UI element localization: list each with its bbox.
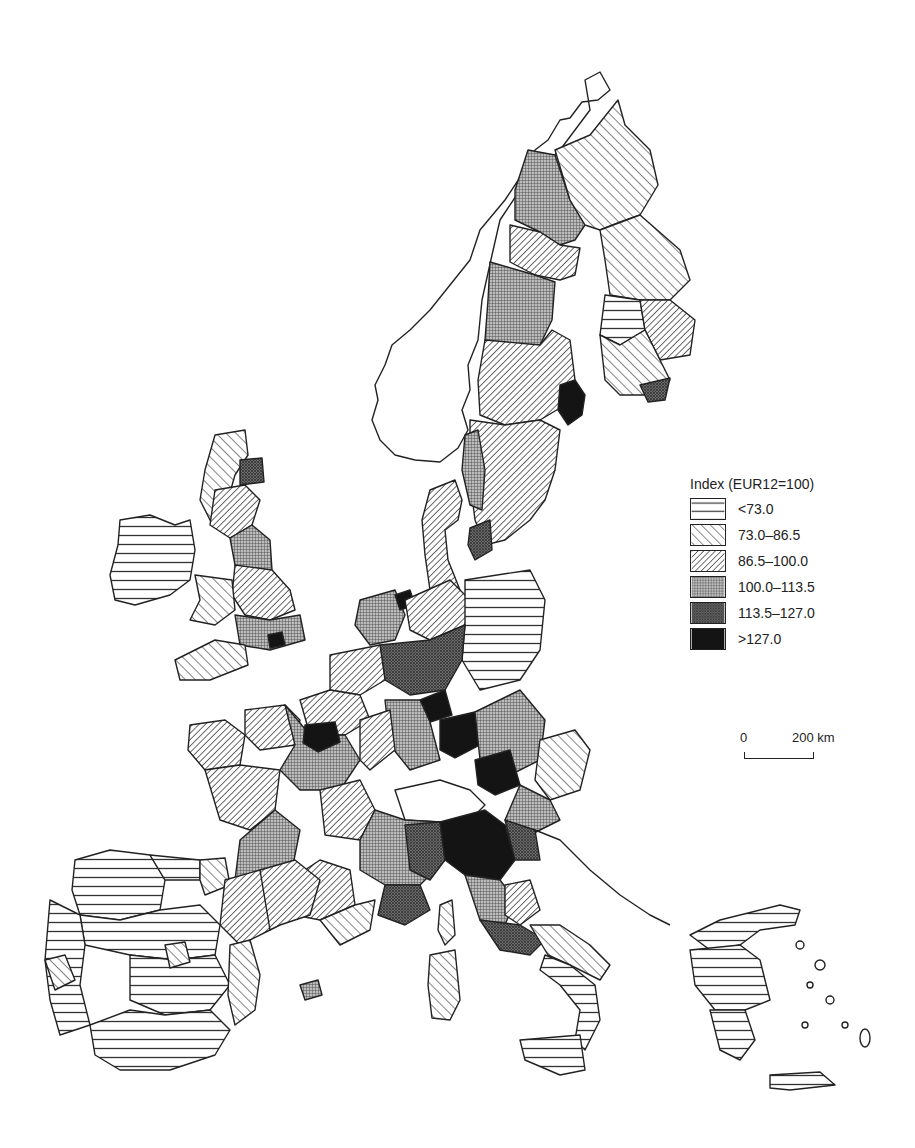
scale-end-label: 200 km: [792, 730, 835, 745]
region-crete: [770, 1072, 835, 1090]
island-aegean: [842, 1022, 848, 1028]
region-stuttgart: [440, 712, 480, 758]
legend-title: Index (EUR12=100): [690, 476, 890, 492]
region-provence: [378, 885, 430, 925]
region-finland-north: [600, 215, 690, 300]
region-grampian: [240, 458, 264, 485]
pattern-fine-grid-icon: [690, 576, 726, 598]
region-corsica: [438, 900, 455, 945]
legend: Index (EUR12=100) <73.0 73.0–86.5 86.5–1…: [690, 476, 890, 652]
region-sicily: [520, 1035, 585, 1075]
legend-label: >127.0: [738, 631, 781, 647]
pattern-solid-black-icon: [690, 628, 726, 650]
region-copenhagen: [468, 520, 492, 560]
region-brittany: [188, 720, 245, 770]
island-rhodes: [860, 1029, 870, 1047]
region-adriatic-coast: [535, 830, 670, 925]
island-aegean: [802, 1022, 808, 1028]
region-balearics: [300, 980, 322, 1000]
region-spain-northwest: [72, 850, 165, 920]
region-england-southwest: [175, 640, 248, 680]
island-aegean: [807, 982, 813, 988]
legend-label: 113.5–127.0: [738, 605, 815, 621]
legend-label: <73.0: [738, 501, 773, 517]
region-england-midlands: [232, 565, 295, 620]
region-lombardy-emilia: [440, 810, 515, 880]
island-aegean: [815, 960, 825, 970]
pattern-dense-diagonal-icon: [690, 550, 726, 572]
legend-item: 100.0–113.5: [690, 574, 890, 600]
legend-label: 86.5–100.0: [738, 553, 808, 569]
region-peloponnese: [710, 1010, 755, 1060]
region-valencia: [228, 940, 260, 1025]
region-denmark-jutland: [422, 480, 462, 600]
pattern-dark-crosshatch-icon: [690, 602, 726, 624]
island-aegean: [826, 996, 834, 1004]
legend-item: <73.0: [690, 496, 890, 522]
region-greece-central: [690, 945, 770, 1010]
region-wales: [190, 575, 235, 625]
region-belgium: [330, 645, 385, 695]
region-stockholm: [558, 380, 585, 425]
legend-item: 86.5–100.0: [690, 548, 890, 574]
region-ireland: [110, 515, 195, 605]
scale-start-label: 0: [740, 730, 747, 745]
legend-item: >127.0: [690, 626, 890, 652]
region-marche: [505, 880, 540, 925]
region-austria-east: [535, 730, 590, 800]
scale-line: [744, 752, 814, 759]
region-lorraine: [360, 710, 395, 770]
legend-item: 73.0–86.5: [690, 522, 890, 548]
legend-item: 113.5–127.0: [690, 600, 890, 626]
region-greece-north: [690, 905, 800, 950]
region-andalucia: [90, 1010, 230, 1070]
legend-label: 73.0–86.5: [738, 527, 800, 543]
region-london: [268, 632, 285, 648]
scale-bar: 0 200 km: [740, 730, 860, 770]
pattern-horizontal-lines-icon: [690, 498, 726, 520]
legend-label: 100.0–113.5: [738, 579, 815, 595]
region-germany-east: [462, 570, 545, 690]
region-sardinia: [428, 950, 460, 1020]
island-aegean: [796, 941, 804, 949]
pattern-wide-diagonal-icon: [690, 524, 726, 546]
